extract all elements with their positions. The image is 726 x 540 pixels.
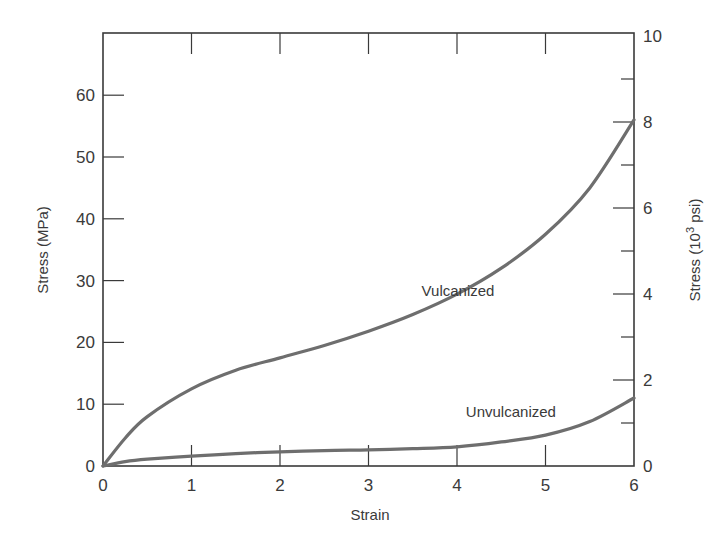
y-left-tick-label: 30 bbox=[76, 272, 95, 291]
y-left-tick-label: 10 bbox=[76, 395, 95, 414]
x-tick-label: 3 bbox=[364, 476, 373, 495]
annotation-unvulcanized: Unvulcanized bbox=[466, 403, 556, 420]
x-tick-label: 6 bbox=[629, 476, 638, 495]
x-tick-label: 2 bbox=[275, 476, 284, 495]
plot-border bbox=[103, 33, 634, 466]
x-tick-label: 0 bbox=[98, 476, 107, 495]
y-left-tick-label: 60 bbox=[76, 86, 95, 105]
y-left-tick-label: 0 bbox=[86, 457, 95, 476]
y-left-tick-label: 40 bbox=[76, 210, 95, 229]
x-tick-label: 4 bbox=[452, 476, 461, 495]
y-axis-left-title: Stress (MPa) bbox=[34, 206, 51, 294]
x-tick-label: 5 bbox=[541, 476, 550, 495]
x-axis: 0123456 bbox=[98, 33, 638, 495]
y-right-title-suffix: psi) bbox=[686, 199, 703, 227]
y-right-tick-label: 10 bbox=[643, 27, 662, 46]
x-axis-title: Strain bbox=[350, 506, 389, 523]
y-axis-right-title: Stress (103 psi) bbox=[684, 199, 703, 302]
annotation-vulcanized: Vulcanized bbox=[422, 282, 495, 299]
y-right-tick-label: 2 bbox=[643, 371, 652, 390]
stress-strain-chart: 0123456 0102030405060 0246810 Vulcanized… bbox=[0, 0, 726, 540]
y-right-tick-label: 8 bbox=[643, 113, 652, 132]
y-left-tick-label: 50 bbox=[76, 148, 95, 167]
y-axis-left: 0102030405060 bbox=[76, 86, 124, 476]
plot-frame bbox=[103, 33, 634, 466]
y-right-title-prefix: Stress (10 bbox=[686, 233, 703, 301]
x-tick-label: 1 bbox=[187, 476, 196, 495]
y-right-tick-label: 0 bbox=[643, 457, 652, 476]
y-right-tick-label: 4 bbox=[643, 285, 652, 304]
y-left-tick-label: 20 bbox=[76, 333, 95, 352]
y-right-tick-label: 6 bbox=[643, 199, 652, 218]
y-axis-right: 0246810 bbox=[613, 27, 662, 476]
